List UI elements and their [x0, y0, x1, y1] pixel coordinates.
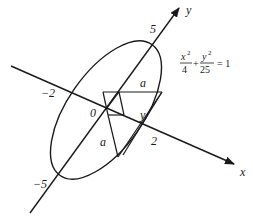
- eq-x-den: 4: [182, 64, 187, 75]
- ellipse-equation: x 2 4 + y 2 25 = 1: [180, 49, 230, 75]
- tick-y-neg5: −5: [33, 177, 47, 191]
- ellipse-curve: [29, 23, 183, 198]
- eq-plus: +: [193, 58, 199, 69]
- eq-y-num: y: [201, 51, 207, 62]
- eq-rhs: = 1: [217, 58, 230, 69]
- segment-label-y: y: [139, 108, 146, 122]
- tick-x-neg2: −2: [41, 86, 55, 100]
- eq-y-exp: 2: [208, 49, 212, 57]
- eq-x-exp: 2: [187, 49, 191, 57]
- ellipse-diagram: 5 −5 −2 2 y x 0 a a y x 2 4 + y 2 25 = 1: [0, 0, 253, 220]
- y-axis-label: y: [185, 3, 192, 17]
- eq-y-den: 25: [200, 64, 210, 75]
- eq-x-num: x: [180, 51, 186, 62]
- tick-x-2: 2: [151, 134, 157, 148]
- segment-label-a-top: a: [140, 76, 146, 90]
- origin-label: 0: [90, 106, 96, 120]
- x-axis-label: x: [239, 165, 246, 179]
- segment-label-a-left: a: [100, 135, 106, 149]
- tick-y-5: 5: [150, 22, 156, 36]
- y-axis: [30, 8, 179, 213]
